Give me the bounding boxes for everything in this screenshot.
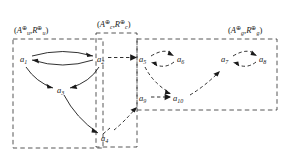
edge-a3-a4-path bbox=[64, 95, 98, 133]
node-a1: a1 bbox=[20, 54, 27, 65]
group-boxes bbox=[13, 33, 277, 148]
diagram-root: (A⊕u,R⊕u) (A⊕c,R⊕c) (A⊕g,R⊕g) bbox=[0, 0, 285, 166]
edge-a2-a5-arrowhead bbox=[130, 54, 137, 61]
edge-a1-a3-path bbox=[26, 67, 53, 88]
edge-a1-a2-arrowhead bbox=[86, 52, 93, 57]
edge-a2-a3-arrowhead bbox=[70, 85, 77, 89]
node-a7: a7 bbox=[221, 54, 229, 65]
group-label-g: (A⊕g,R⊕g) bbox=[228, 25, 262, 36]
edge-a5-a10-arrowhead bbox=[165, 89, 171, 94]
edge-a6-a5-arrowhead bbox=[151, 62, 157, 67]
group-label-u: (A⊕u,R⊕u) bbox=[14, 25, 48, 36]
node-a10: a10 bbox=[173, 93, 183, 104]
edge-a1-a3-arrowhead bbox=[47, 84, 54, 89]
edge-a2-a1-path bbox=[32, 60, 93, 65]
edge-a5-a10-path bbox=[145, 67, 170, 93]
group-label-c: (A⊕c,R⊕c) bbox=[97, 19, 131, 30]
edge-a7-a8-arrowhead bbox=[251, 51, 258, 56]
node-a6: a6 bbox=[177, 54, 184, 65]
edge-a10-a7-path bbox=[190, 72, 219, 95]
edge-a4-a9-arrowhead bbox=[131, 107, 138, 113]
edge-a2-a3-path bbox=[70, 67, 99, 88]
edge-a4-a9-path bbox=[114, 108, 136, 130]
graph-canvas: (A⊕u,R⊕u) (A⊕c,R⊕c) (A⊕g,R⊕g) bbox=[0, 0, 285, 166]
edge-a1-a2-path bbox=[32, 52, 93, 57]
group-labels: (A⊕u,R⊕u) (A⊕c,R⊕c) (A⊕g,R⊕g) bbox=[14, 19, 262, 36]
node-a8: a8 bbox=[259, 54, 266, 65]
edge-a2-a1-arrowhead bbox=[32, 59, 39, 64]
node-a9: a9 bbox=[139, 93, 146, 104]
group-box-c bbox=[96, 33, 137, 147]
node-a5: a5 bbox=[139, 54, 146, 65]
edge-a10-a7-arrowhead bbox=[213, 71, 220, 76]
node-a2: a2 bbox=[97, 54, 104, 65]
edge-a3-a4-arrowhead bbox=[92, 128, 99, 133]
edge-a9-a10-arrowhead bbox=[165, 94, 171, 100]
node-a4: a4 bbox=[101, 133, 108, 144]
group-box-g bbox=[137, 39, 277, 110]
node-a3: a3 bbox=[57, 85, 64, 96]
node-labels: a1 a2 a3 a4 a5 a6 a7 a8 a9 a10 bbox=[20, 54, 266, 144]
edge-a8-a7-arrowhead bbox=[233, 62, 239, 67]
